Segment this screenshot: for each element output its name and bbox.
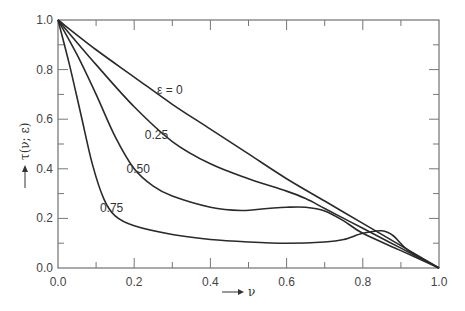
x-tick-label: 1.0 xyxy=(431,275,448,289)
y-tick-label: 1.0 xyxy=(36,13,53,27)
y-tick-label: 0.2 xyxy=(36,211,53,225)
y-axis-label: τ(ν; ε) xyxy=(18,123,32,160)
y-tick-label: 0.0 xyxy=(36,261,53,275)
curve-label-0: ε = 0 xyxy=(157,83,183,97)
axis-tick-labels: 0.00.20.40.60.81.00.00.20.40.60.81.0 xyxy=(36,13,447,289)
y-tick-label: 0.4 xyxy=(36,162,53,176)
x-tick-label: 0.6 xyxy=(278,275,295,289)
x-axis-label: ν xyxy=(248,285,255,299)
y-axis-title: τ(ν; ε) xyxy=(18,123,32,188)
curve-label-3: 0.75 xyxy=(100,201,124,215)
curves xyxy=(58,20,439,268)
curve-label-1: 0.25 xyxy=(145,128,169,142)
arrow-right-icon xyxy=(238,289,244,295)
x-tick-label: 0.8 xyxy=(354,275,371,289)
y-tick-label: 0.6 xyxy=(36,112,53,126)
x-tick-label: 0.2 xyxy=(126,275,143,289)
x-axis-title: ν xyxy=(222,285,255,299)
curve-label-2: 0.50 xyxy=(127,162,151,176)
curve-series-3 xyxy=(58,20,439,268)
y-tick-label: 0.8 xyxy=(36,63,53,77)
line-chart: 0.00.20.40.60.81.00.00.20.40.60.81.0 ε =… xyxy=(0,0,465,311)
x-tick-label: 0.4 xyxy=(202,275,219,289)
arrow-up-icon xyxy=(22,165,28,172)
x-tick-label: 0.0 xyxy=(50,275,67,289)
